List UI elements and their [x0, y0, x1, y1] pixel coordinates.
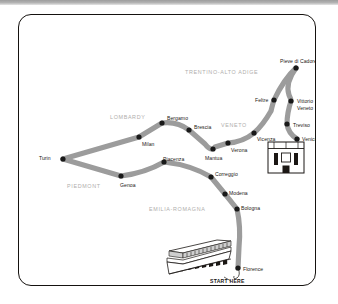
- region-label: VENETO: [221, 123, 247, 128]
- city-label: Vicenza: [257, 137, 275, 142]
- route-veneto-leg: [287, 68, 297, 139]
- city-label: Modena: [229, 191, 248, 196]
- region-label: LOMBARDY: [110, 115, 145, 120]
- region-label: PIEDMONT: [67, 184, 101, 189]
- start-here-label: START HERE: [210, 279, 245, 284]
- region-label: TRENTINO-ALTO ADIGE: [185, 70, 258, 75]
- city-marker[interactable]: [186, 127, 191, 132]
- map-frame: TurinGenoaMilanBergamoBresciaPiacenzaMan…: [18, 14, 316, 286]
- city-marker[interactable]: [271, 97, 276, 102]
- city-marker[interactable]: [235, 265, 240, 270]
- city-label: Milan: [142, 142, 154, 147]
- city-label: Feltre: [255, 98, 268, 103]
- region-label: EMILIA-ROMAGNA: [149, 207, 205, 212]
- city-marker[interactable]: [225, 140, 230, 145]
- city-label: Treviso: [293, 123, 310, 128]
- city-label: Bergamo: [167, 116, 188, 121]
- city-label: Venice: [302, 137, 316, 142]
- route-map-svg: [19, 15, 316, 286]
- city-marker[interactable]: [294, 136, 299, 141]
- city-marker[interactable]: [159, 120, 164, 125]
- city-label: Verona: [231, 148, 247, 153]
- city-marker[interactable]: [210, 146, 215, 151]
- city-marker[interactable]: [284, 121, 289, 126]
- city-label: Bologna: [241, 206, 260, 211]
- city-label: Genoa: [120, 183, 136, 188]
- city-marker[interactable]: [251, 130, 256, 135]
- top-banner-bar: [0, 0, 338, 5]
- city-label: Turin: [39, 156, 51, 161]
- city-marker[interactable]: [222, 191, 227, 196]
- city-marker[interactable]: [234, 206, 239, 211]
- city-marker[interactable]: [60, 156, 65, 161]
- florence-colonnade-icon: [167, 240, 231, 274]
- city-marker[interactable]: [293, 65, 298, 70]
- city-marker[interactable]: [208, 174, 213, 179]
- city-label: Pieve di Cadore: [280, 59, 316, 64]
- city-label: Florence: [243, 267, 263, 272]
- city-marker[interactable]: [288, 98, 293, 103]
- city-label: Mantua: [205, 156, 222, 161]
- map-page: TurinGenoaMilanBergamoBresciaPiacenzaMan…: [0, 0, 338, 304]
- city-label: Brescia: [194, 125, 211, 130]
- city-marker[interactable]: [136, 134, 141, 139]
- city-label: VittorioVeneto: [297, 98, 313, 111]
- city-label: Correggio: [215, 172, 238, 177]
- city-marker[interactable]: [118, 173, 123, 178]
- venice-building-icon: [268, 142, 304, 173]
- city-label: Piacenza: [163, 157, 184, 162]
